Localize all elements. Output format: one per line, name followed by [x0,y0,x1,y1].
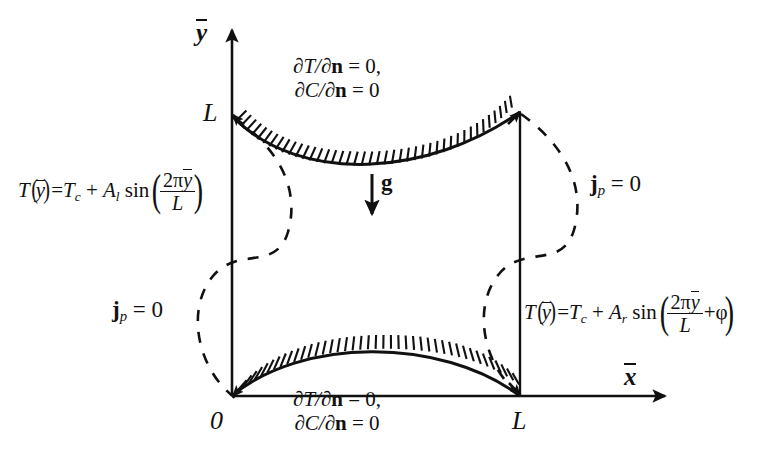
left-wall-temperature-equation: T(y)=Tc + Al sin(2πyL) [18,170,206,215]
x-axis-label: x [624,362,637,389]
left-dashed-flux-curve [198,118,292,398]
tick-label-y-top: L [203,100,217,126]
right-wall-temperature-equation: T(y)=Tc + Ar sin(2πyL+φ) [524,292,737,337]
top-boundary-condition: ∂T/∂n = 0, ∂C/∂n = 0 [293,55,381,104]
top-bc-line-2: ∂C/∂n = 0 [293,80,381,101]
y-axis-label: y [196,18,207,45]
tick-label-x-right: L [512,408,526,434]
tick-label-origin: 0 [210,408,223,434]
top-bc-line-1: ∂T/∂n = 0, [293,56,381,77]
left-flux-label: jp = 0 [112,298,163,324]
top-boundary-curve [232,96,520,166]
figure-canvas: y x L 0 L ∂T/∂n = 0, ∂C/∂n = 0 ∂T/∂n = 0… [0,0,783,460]
bottom-bc-line-1: ∂T/∂n = 0, [293,389,381,410]
gravity-label: g [381,171,393,194]
right-flux-label: jp = 0 [590,172,641,198]
diagram-vector-layer [0,0,783,460]
bottom-boundary-condition: ∂T/∂n = 0, ∂C/∂n = 0 [293,388,381,437]
bottom-bc-line-2: ∂C/∂n = 0 [293,413,381,434]
right-dashed-flux-curve [484,114,578,396]
